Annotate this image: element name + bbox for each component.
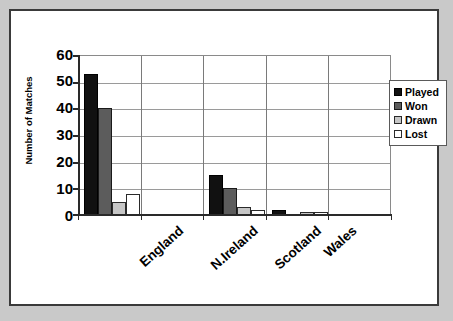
legend-label-drawn: Drawn — [405, 115, 437, 126]
y-tick-label-40: 40 — [41, 100, 73, 115]
legend-label-won: Won — [405, 101, 428, 112]
y-tick-mark-10 — [73, 188, 78, 190]
legend-label-played: Played — [405, 87, 439, 98]
category-separator-1 — [141, 56, 142, 215]
bar-england-played — [84, 74, 98, 215]
category-separator-2 — [203, 56, 204, 215]
x-axis-label-wales: Wales — [321, 223, 360, 260]
legend-swatch-played-icon — [394, 88, 402, 96]
y-tick-mark-60 — [73, 55, 78, 57]
y-tick-mark-40 — [73, 108, 78, 110]
x-tick-mark-1 — [141, 215, 142, 220]
bar-england-lost — [126, 194, 140, 215]
x-tick-mark-4 — [328, 215, 329, 220]
legend-swatch-drawn-icon — [394, 116, 402, 124]
x-tick-mark-3 — [266, 215, 267, 220]
x-tick-mark-5 — [391, 215, 392, 220]
y-tick-label-10: 10 — [41, 181, 73, 196]
x-tick-mark-2 — [203, 215, 204, 220]
gridline-50 — [78, 83, 390, 84]
y-axis-title: Number of Matches — [23, 66, 34, 176]
plot-area — [78, 55, 391, 215]
gridline-30 — [78, 136, 390, 137]
y-axis-tick-labels: 60 50 40 30 20 10 0 — [37, 11, 73, 308]
y-tick-mark-30 — [73, 135, 78, 137]
legend-item-lost: Lost — [394, 127, 443, 141]
category-separator-4 — [328, 56, 329, 215]
bar-england-won — [98, 108, 112, 215]
legend-item-played: Played — [394, 85, 443, 99]
gridline-40 — [78, 109, 390, 110]
y-tick-mark-20 — [73, 162, 78, 164]
y-axis-line — [78, 55, 80, 216]
x-axis-label-scotland: Scotland — [272, 223, 324, 272]
x-tick-mark-0 — [78, 215, 79, 220]
legend-swatch-won-icon — [394, 102, 402, 110]
bar-england-drawn — [112, 202, 126, 215]
bar-scotland-won — [223, 188, 237, 215]
legend-swatch-lost-icon — [394, 130, 402, 138]
x-axis-line — [78, 214, 392, 216]
y-tick-label-50: 50 — [41, 73, 73, 88]
y-tick-label-60: 60 — [41, 47, 73, 62]
bar-scotland-played — [209, 175, 223, 215]
legend-item-drawn: Drawn — [394, 113, 443, 127]
y-tick-label-0: 0 — [41, 208, 73, 223]
legend-item-won: Won — [394, 99, 443, 113]
legend-label-lost: Lost — [405, 129, 427, 140]
x-axis-label-england: England — [137, 223, 187, 270]
category-separator-3 — [266, 56, 267, 215]
y-tick-label-20: 20 — [41, 154, 73, 169]
y-tick-mark-50 — [73, 82, 78, 84]
x-axis-label-nireland: N.Ireland — [208, 223, 261, 273]
y-tick-label-30: 30 — [41, 127, 73, 142]
chart-legend: Played Won Drawn Lost — [389, 80, 447, 146]
chart-frame: 60 50 40 30 20 10 0 Number of Matches — [9, 9, 439, 306]
gridline-20 — [78, 163, 390, 164]
